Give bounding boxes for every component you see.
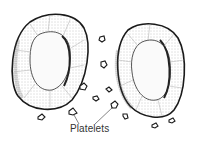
platelet: [99, 36, 105, 42]
platelet: [169, 118, 175, 123]
red-blood-cell-right: [117, 24, 185, 117]
illustration: [0, 0, 200, 143]
platelet: [69, 108, 77, 115]
platelet: [123, 114, 128, 119]
platelets-label: Platelets: [70, 123, 109, 134]
platelet: [38, 114, 45, 120]
platelet: [111, 101, 118, 108]
platelet: [93, 96, 99, 101]
platelet: [101, 61, 107, 68]
label-leader-lines: [74, 107, 113, 124]
red-blood-cell-left: [12, 14, 88, 109]
platelet: [152, 123, 158, 128]
platelet: [106, 87, 112, 92]
